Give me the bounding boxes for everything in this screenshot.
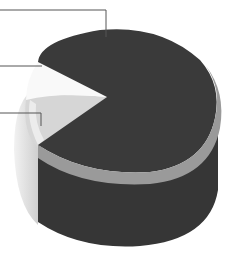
pie-chart-3d	[0, 0, 232, 258]
